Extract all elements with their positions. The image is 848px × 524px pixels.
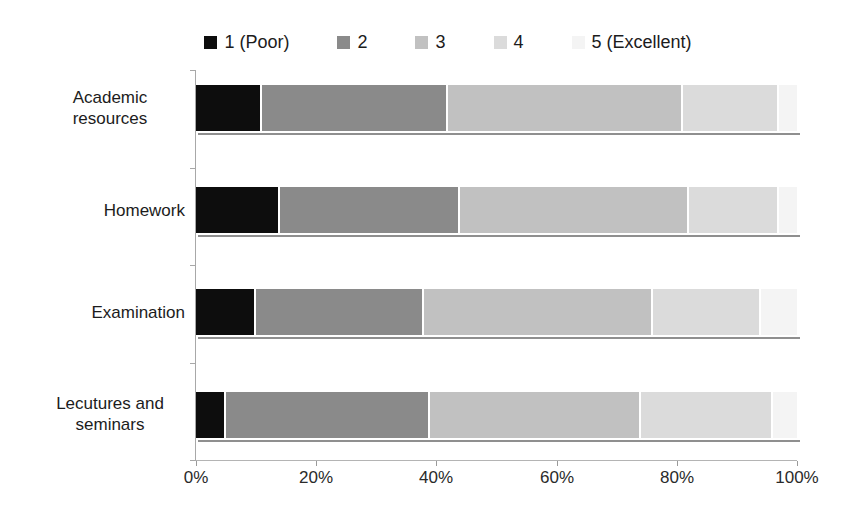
legend-swatch-icon — [572, 36, 585, 49]
legend-item-4: 4 — [494, 31, 524, 53]
x-axis-tick-label: 20% — [281, 468, 351, 488]
bar-segment-2 — [256, 289, 424, 335]
legend-swatch-icon — [494, 36, 507, 49]
bar-segment-5 — [773, 392, 797, 438]
bar-segment-1 — [196, 289, 256, 335]
bar-segment-5 — [761, 289, 797, 335]
bar-segment-2 — [262, 85, 448, 131]
bar-segment-3 — [424, 289, 652, 335]
category-label: Academic resources — [35, 87, 185, 129]
legend-label: 5 (Excellent) — [592, 31, 692, 53]
bar-shadow-line — [198, 235, 800, 237]
x-axis-tick-label: 100% — [762, 468, 832, 488]
bar-segment-5 — [779, 187, 797, 233]
bar-segment-1 — [196, 187, 280, 233]
legend-label: 3 — [435, 31, 445, 53]
bar-row — [196, 85, 797, 131]
bar-row — [196, 392, 797, 438]
x-axis-tick-label: 0% — [161, 468, 231, 488]
chart-legend: 1 (Poor)2345 (Excellent) — [0, 30, 848, 54]
bar-segment-4 — [641, 392, 773, 438]
legend-label: 4 — [514, 31, 524, 53]
category-label: Examination — [91, 302, 185, 323]
legend-item-1: 1 (Poor) — [204, 31, 289, 53]
x-axis-tick-label: 40% — [401, 468, 471, 488]
category-label: Lecutures and seminars — [35, 393, 185, 435]
bar-shadow-line — [198, 133, 800, 135]
legend-label: 1 (Poor) — [224, 31, 289, 53]
bar-segment-5 — [779, 85, 797, 131]
x-axis-tick — [797, 461, 798, 466]
x-axis-tick — [436, 461, 437, 466]
bar-segment-3 — [460, 187, 688, 233]
legend-label: 2 — [357, 31, 367, 53]
bar-shadow-line — [198, 440, 800, 442]
y-axis-tick — [190, 168, 196, 169]
bar-segment-2 — [280, 187, 460, 233]
legend-swatch-icon — [337, 36, 350, 49]
stacked-bar-chart-figure: 1 (Poor)2345 (Excellent) 0%20%40%60%80%1… — [0, 0, 848, 524]
bar-segment-1 — [196, 85, 262, 131]
bar-segment-4 — [653, 289, 761, 335]
legend-item-2: 2 — [337, 31, 367, 53]
legend-swatch-icon — [415, 36, 428, 49]
bar-segment-2 — [226, 392, 430, 438]
x-axis-tick — [557, 461, 558, 466]
bar-segment-4 — [683, 85, 779, 131]
x-axis-tick — [316, 461, 317, 466]
legend-item-3: 3 — [415, 31, 445, 53]
y-axis-tick — [190, 363, 196, 364]
x-axis-tick — [196, 461, 197, 466]
x-axis-tick — [677, 461, 678, 466]
bar-segment-3 — [448, 85, 682, 131]
y-axis-tick — [190, 460, 196, 461]
x-axis-tick-label: 60% — [522, 468, 592, 488]
y-axis-tick — [190, 70, 196, 71]
bar-row — [196, 289, 797, 335]
bar-shadow-line — [198, 337, 800, 339]
legend-item-5: 5 (Excellent) — [572, 31, 692, 53]
bar-segment-1 — [196, 392, 226, 438]
legend-swatch-icon — [204, 36, 217, 49]
bar-segment-3 — [430, 392, 640, 438]
plot-area: 0%20%40%60%80%100% — [195, 70, 797, 461]
category-label: Homework — [104, 200, 185, 221]
bar-segment-4 — [689, 187, 779, 233]
y-axis-tick — [190, 265, 196, 266]
x-axis-tick-label: 80% — [642, 468, 712, 488]
bar-row — [196, 187, 797, 233]
